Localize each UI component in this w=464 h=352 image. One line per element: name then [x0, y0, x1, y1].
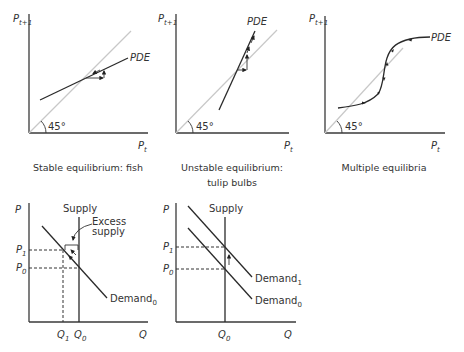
economics-diagram: Pt+1 Pt PDE 45° Stable equilibrium: fish… [0, 0, 464, 352]
x-axis-label: Pt [284, 140, 293, 154]
angle-label: 45° [196, 121, 214, 132]
angle-label: 45° [48, 121, 66, 132]
pde-curve [338, 37, 430, 108]
q0-label: Q0 [74, 329, 87, 343]
45-degree-line [176, 30, 277, 133]
annotation-line2: supply [92, 226, 125, 237]
p0-label: P0 [163, 263, 174, 277]
q1-label: Q1 [57, 329, 69, 343]
curve-arrows [362, 39, 412, 105]
demand1-curve [188, 206, 252, 277]
p1-label: P1 [16, 244, 27, 258]
annotation-pointer [73, 224, 92, 240]
y-axis-label: P [15, 204, 22, 215]
p0-label: P0 [16, 262, 27, 276]
pde-curve [40, 58, 128, 100]
pde-curve [219, 31, 255, 110]
panel-caption: Multiple equilibria [342, 162, 427, 173]
pde-label: PDE [130, 52, 151, 63]
panel-caption-line1: Unstable equilibrium: [181, 162, 283, 173]
panel-caption-line2: tulip bulbs [207, 177, 257, 188]
demand0-label: Demand0 [255, 295, 302, 309]
cobweb-arrows [238, 36, 254, 70]
y-axis-label: Pt+1 [158, 13, 177, 27]
stable-equilibrium-panel: Pt+1 Pt PDE 45° Stable equilibrium: fish [13, 13, 151, 173]
unstable-equilibrium-panel: Pt+1 Pt PDE 45° Unstable equilibrium: tu… [158, 13, 293, 188]
demand0-label: Demand0 [110, 293, 157, 307]
p1-label: P1 [163, 241, 174, 255]
x-axis-label: Q [139, 329, 147, 340]
pde-label: PDE [431, 32, 452, 43]
multiple-equilibria-panel: Pt+1 Pt PDE 45° Multiple equilibria [309, 13, 452, 173]
panel-caption: Stable equilibrium: fish [33, 162, 143, 173]
demand0-curve [188, 228, 252, 299]
angle-arc [337, 121, 342, 133]
demand-shift-panel: P Q Supply Demand1 Demand0 P1 P0 Q0 [163, 203, 302, 343]
y-axis-label: Pt+1 [309, 13, 328, 27]
45-degree-line [325, 48, 403, 133]
x-axis-label: Pt [431, 140, 440, 154]
pde-label: PDE [247, 16, 268, 27]
excess-supply-panel: P Q Supply Excess supply Demand0 P1 P0 Q… [15, 203, 157, 343]
supply-label: Supply [209, 203, 243, 214]
angle-arc [41, 121, 46, 133]
angle-label: 45° [345, 121, 363, 132]
supply-label: Supply [63, 203, 97, 214]
q0-label: Q0 [218, 329, 231, 343]
45-degree-line [29, 31, 131, 133]
excess-supply-bracket [65, 245, 78, 250]
y-axis-label: P [163, 204, 170, 215]
x-axis-label: Pt [138, 140, 147, 154]
x-axis-label: Q [284, 329, 292, 340]
demand1-label: Demand1 [255, 273, 302, 287]
angle-arc [188, 121, 193, 133]
